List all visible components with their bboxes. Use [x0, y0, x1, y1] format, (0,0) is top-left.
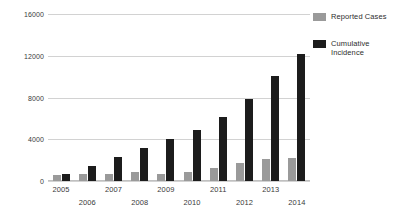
y-axis: 0400080001200016000	[0, 0, 44, 222]
legend-label-cumulative-incidence: Cumulative Incidence	[331, 39, 396, 57]
legend-label-reported-cases: Reported Cases	[331, 12, 396, 21]
y-axis-tick-label: 12000	[24, 52, 44, 59]
bar-group	[262, 14, 279, 181]
bar-chart: 0400080001200016000 20052006200720082009…	[0, 0, 396, 222]
legend-swatch-cumulative-icon	[313, 40, 326, 48]
x-axis-tick-label: 2014	[288, 198, 305, 207]
bar-reported-cases	[236, 163, 244, 181]
bar-group	[236, 14, 253, 181]
bar-group	[105, 14, 122, 181]
bar-group	[288, 14, 305, 181]
bar-reported-cases	[288, 158, 296, 181]
x-axis-tick-label: 2009	[157, 185, 174, 194]
x-axis-tick-label: 2012	[236, 198, 253, 207]
bar-cumulative-incidence	[140, 148, 148, 181]
bar-reported-cases	[210, 168, 218, 181]
bar-reported-cases	[184, 172, 192, 181]
bar-group	[79, 14, 96, 181]
bar-reported-cases	[157, 174, 165, 181]
bar-cumulative-incidence	[271, 76, 279, 181]
x-axis-tick-label: 2007	[105, 185, 122, 194]
bar-reported-cases	[79, 174, 87, 181]
chart-legend: Reported Cases Cumulative Incidence	[313, 12, 396, 66]
bar-group	[157, 14, 174, 181]
bar-cumulative-incidence	[166, 139, 174, 181]
x-axis-tick-label: 2006	[79, 198, 96, 207]
bar-cumulative-incidence	[219, 117, 227, 181]
bar-cumulative-incidence	[114, 157, 122, 181]
bar-group	[53, 14, 70, 181]
bar-reported-cases	[105, 174, 113, 182]
y-axis-tick-label: 8000	[28, 94, 44, 101]
y-axis-tick-label: 4000	[28, 136, 44, 143]
x-axis-tick-label: 2011	[210, 185, 227, 194]
bar-group	[184, 14, 201, 181]
bar-reported-cases	[131, 172, 139, 181]
legend-item-reported-cases: Reported Cases	[313, 12, 396, 30]
bar-cumulative-incidence	[245, 99, 253, 181]
bar-cumulative-incidence	[88, 166, 96, 181]
bar-cumulative-incidence	[193, 130, 201, 181]
x-axis-tick-label: 2005	[53, 185, 70, 194]
bar-cumulative-incidence	[297, 54, 305, 181]
bar-cumulative-incidence	[62, 174, 70, 181]
x-axis-tick-label: 2008	[131, 198, 148, 207]
plot-area	[48, 14, 310, 181]
y-axis-tick-label: 0	[40, 178, 44, 185]
legend-swatch-reported-icon	[313, 13, 326, 21]
legend-item-cumulative-incidence: Cumulative Incidence	[313, 39, 396, 57]
x-axis-tick-label: 2013	[262, 185, 279, 194]
bar-group	[210, 14, 227, 181]
x-axis-tick-label: 2010	[184, 198, 201, 207]
y-axis-tick-label: 16000	[24, 11, 44, 18]
bar-group	[131, 14, 148, 181]
x-axis: 2005200620072008200920102011201220132014	[48, 181, 310, 222]
bar-reported-cases	[262, 159, 270, 181]
